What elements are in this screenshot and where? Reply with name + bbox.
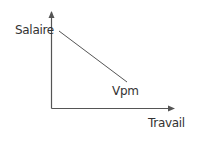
vpm-curve <box>59 31 127 82</box>
x-axis-label: Travail <box>148 116 185 130</box>
y-axis-label: Salaire <box>15 23 54 37</box>
curve-label-vpm: Vpm <box>112 84 139 98</box>
